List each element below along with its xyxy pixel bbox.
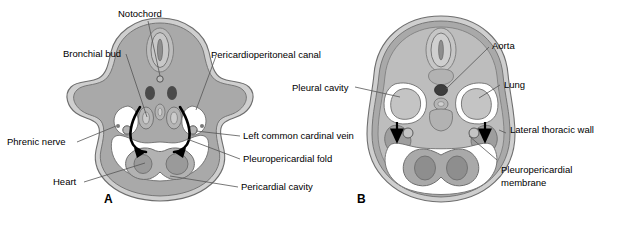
label-left-common-cardinal-vein: Left common cardinal vein: [243, 130, 354, 141]
label-pericardioperitoneal-canal: Pericardioperitoneal canal: [211, 49, 321, 60]
label-heart: Heart: [53, 176, 76, 187]
panel-b-mediastinum: [429, 109, 452, 131]
label-aorta: Aorta: [492, 40, 515, 51]
label-pleuropericardial-fold: Pleuropericardial fold: [243, 153, 332, 164]
panel-a-phrenic-nerve-dot-left: [116, 124, 120, 128]
panel-b-lung-left: [391, 89, 421, 120]
figure-canvas: Notochord Bronchial bud Phrenic nerve He…: [0, 0, 633, 227]
label-pleural-cavity: Pleural cavity: [292, 82, 349, 93]
diagram-svg: [0, 0, 633, 227]
panel-b-heart-chamber-left: [415, 156, 436, 180]
label-bronchial-bud: Bronchial bud: [63, 48, 121, 59]
panel-a-dorsal-aorta-right: [167, 86, 177, 100]
panel-letter-b: B: [357, 192, 366, 206]
panel-letter-a: A: [104, 192, 113, 206]
panel-a-phrenic-nerve-dot-right: [200, 124, 204, 128]
panel-a-bronchial-bud-right-lumen: [171, 112, 178, 124]
panel-a-neural-canal: [157, 39, 162, 61]
label-pleuropericardial-membrane-line1: Pleuropericardial: [501, 164, 572, 175]
label-pleuropericardial-membrane-line2: membrane: [501, 177, 546, 188]
panel-a-heart-chamber-right: [166, 154, 188, 175]
panel-a-dorsal-aorta-left: [145, 86, 155, 100]
label-notochord: Notochord: [118, 8, 162, 19]
panel-b-neural-canal: [439, 40, 444, 60]
panel-b-vertebral-body: [428, 69, 453, 85]
panel-b-aorta: [435, 85, 448, 96]
panel-b-heart-chamber-right: [447, 156, 468, 180]
label-lateral-thoracic-wall: Lateral thoracic wall: [510, 124, 594, 135]
panel-b-cardinal-vein-left: [403, 128, 413, 138]
label-pericardial-cavity: Pericardial cavity: [241, 181, 313, 192]
panel-a-esophagus-lumen: [158, 108, 162, 116]
panel-a-anatomy: [67, 18, 253, 201]
label-lung: Lung: [504, 79, 525, 90]
panel-b-cardinal-vein-right: [469, 128, 479, 138]
label-phrenic-nerve: Phrenic nerve: [7, 136, 66, 147]
panel-b-esophagus-lumen: [438, 102, 444, 107]
panel-a-notochord: [157, 76, 163, 82]
